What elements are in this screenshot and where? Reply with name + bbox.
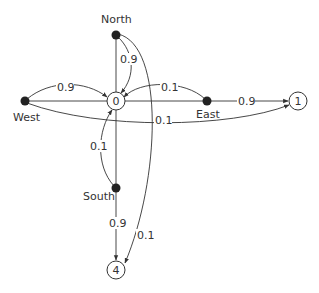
- label-north-to-0: 0.9: [120, 53, 138, 66]
- node-east: [203, 97, 212, 106]
- label-east-to-0: 0.1: [161, 81, 179, 94]
- node-west: [21, 97, 30, 106]
- state-diagram: 0.9 0.1 0.9 0.1 0.1 0.9 0.1 0.9 North We…: [0, 0, 319, 293]
- node-state-1-label: 1: [295, 95, 302, 108]
- node-north: [112, 31, 121, 40]
- label-south-to-0: 0.1: [90, 140, 108, 153]
- node-west-label: West: [13, 111, 41, 124]
- label-west-to-1: 0.1: [155, 114, 173, 127]
- node-state-4-label: 4: [113, 264, 120, 277]
- label-east-to-1: 0.9: [238, 95, 256, 108]
- node-east-label: East: [196, 108, 220, 121]
- node-state-0-label: 0: [113, 95, 120, 108]
- node-north-label: North: [101, 13, 132, 26]
- node-south-label: South: [83, 190, 115, 203]
- label-south-to-4: 0.9: [109, 217, 127, 230]
- label-west-to-0: 0.9: [57, 81, 75, 94]
- label-north-to-4: 0.1: [137, 229, 155, 242]
